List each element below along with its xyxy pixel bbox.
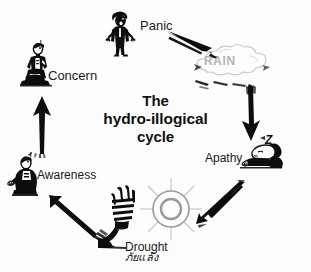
stage-label-drought-thai: ภัยแล้ง: [125, 252, 158, 263]
sun-icon: [140, 178, 202, 240]
stage-label-awareness: Awareness: [37, 169, 96, 181]
stage-panic-icon: [104, 10, 138, 58]
arrow-awareness-to-concern: [28, 96, 58, 158]
stage-label-apathy: Apathy: [205, 152, 242, 164]
sleep-z-icon: Z: [265, 133, 272, 147]
stage-apathy-icon: [240, 138, 284, 172]
stage-label-rain: RAIN: [204, 54, 236, 68]
stage-label-concern: Concern: [48, 69, 97, 82]
hydro-illogical-cycle-diagram: The hydro-illogical cycle: [0, 0, 311, 272]
arrow-drought-to-awareness: [48, 194, 108, 246]
